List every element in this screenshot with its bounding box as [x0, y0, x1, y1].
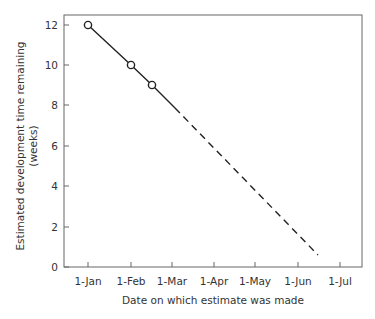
y-tick-label: 6 [51, 140, 58, 152]
x-tick-label: 1-Apr [200, 275, 229, 287]
x-tick-label: 1-Jan [74, 275, 101, 287]
y-tick-label: 12 [45, 19, 58, 31]
plot-frame [64, 15, 362, 267]
x-tick-label: 1-May [239, 275, 271, 287]
y-tick-label: 2 [51, 221, 58, 233]
data-point-marker [84, 21, 91, 28]
y-axis: 0 2 4 6 8 10 12 [45, 19, 69, 273]
y-axis-title-line1: Estimated development time remaining [14, 41, 26, 250]
y-tick-label: 10 [45, 59, 58, 71]
x-tick-label: 1-Jul [328, 275, 352, 287]
y-axis-title: Estimated development time remaining (we… [14, 41, 39, 250]
y-tick-label: 0 [51, 261, 58, 273]
x-tick-label: 1-Feb [116, 275, 145, 287]
x-axis-title: Date on which estimate was made [122, 294, 304, 306]
x-axis: 1-Jan 1-Feb 1-Mar 1-Apr 1-May 1-Jun 1-Ju… [74, 262, 351, 287]
chart: 0 2 4 6 8 10 12 1-Jan 1-Feb 1-Mar 1-Apr … [0, 0, 375, 319]
y-tick-label: 8 [51, 99, 58, 111]
x-tick-label: 1-Jun [284, 275, 311, 287]
x-tick-label: 1-Mar [157, 275, 188, 287]
estimate-line-projected [175, 108, 318, 255]
data-point-marker [148, 81, 155, 88]
y-tick-label: 4 [51, 180, 58, 192]
y-axis-title-line2: (weeks) [27, 125, 39, 166]
data-point-marker [127, 61, 134, 68]
